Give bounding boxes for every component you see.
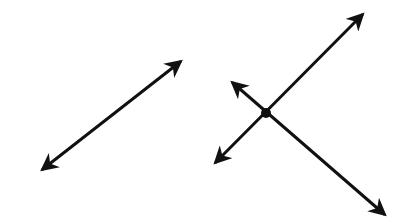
intersection-point: [261, 108, 271, 118]
line-b: [233, 83, 384, 214]
standalone-line: [43, 62, 180, 169]
geometry-figure: [0, 0, 395, 219]
